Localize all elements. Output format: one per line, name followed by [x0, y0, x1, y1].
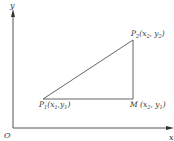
- x-axis-label: x: [169, 133, 174, 141]
- x-axis-arrow-icon: [166, 126, 174, 130]
- coordinate-diagram: y O x P2(x2, y2) P1(x1,y1) M (x2, y1): [0, 0, 174, 141]
- point-p2-label: P2(x2, y2): [130, 29, 165, 39]
- point-p1-label: P1(x1,y1): [38, 100, 70, 110]
- origin-label: O: [4, 131, 11, 140]
- point-m-label: M (x2, y1): [129, 100, 166, 110]
- y-axis-label: y: [9, 1, 15, 10]
- y-axis-arrow-icon: [11, 9, 15, 17]
- segment-p1-p2: [43, 40, 133, 99]
